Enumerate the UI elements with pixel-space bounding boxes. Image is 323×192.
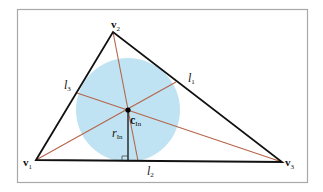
- incenter-dot: [125, 107, 130, 112]
- diagram-canvas: v1 v2 v3 cIn rIn l1 l2 l3: [0, 0, 323, 192]
- incircle-diagram: v1 v2 v3 cIn rIn l1 l2 l3: [0, 0, 323, 192]
